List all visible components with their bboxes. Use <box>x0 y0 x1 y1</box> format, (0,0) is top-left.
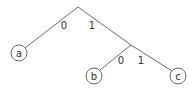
edge-root-n1 <box>78 7 131 45</box>
edge-root-a <box>25 7 78 48</box>
leaf-node-c: c <box>170 68 186 84</box>
edge-label-root-a: 0 <box>61 20 67 31</box>
edge-label-root-n1: 1 <box>89 20 95 31</box>
edge-label-n1-c: 1 <box>138 55 144 66</box>
leaf-node-a: a <box>11 45 27 61</box>
edge-labels: 0 1 0 1 <box>61 20 144 66</box>
code-tree-diagram: 0 1 0 1 a b c <box>0 0 193 93</box>
leaf-label-b: b <box>91 71 97 82</box>
edges <box>25 7 172 71</box>
edge-label-n1-b: 0 <box>118 55 124 66</box>
edge-n1-b <box>100 45 131 70</box>
leaf-label-c: c <box>175 71 181 82</box>
leaf-label-a: a <box>16 48 22 59</box>
leaf-node-b: b <box>86 68 102 84</box>
